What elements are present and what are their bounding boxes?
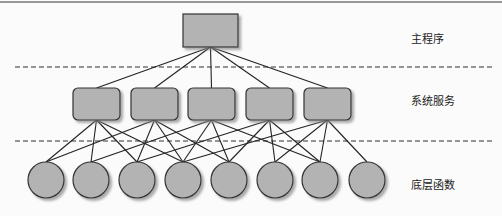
service-node-5 bbox=[304, 88, 351, 120]
layer-label-services: 系统服务 bbox=[411, 92, 455, 108]
function-node-3 bbox=[119, 162, 155, 198]
function-node-2 bbox=[73, 162, 109, 198]
service-node-2 bbox=[131, 88, 178, 120]
function-node-8 bbox=[349, 162, 385, 198]
edge-main-to-service bbox=[211, 47, 212, 88]
edge-main-to-service bbox=[211, 47, 328, 88]
service-node-3 bbox=[188, 88, 235, 120]
service-node-4 bbox=[246, 88, 293, 120]
function-node-6 bbox=[257, 162, 293, 198]
function-node-1 bbox=[28, 162, 64, 198]
nodes bbox=[28, 14, 385, 198]
function-node-4 bbox=[165, 162, 201, 198]
layer-label-functions: 底层函数 bbox=[411, 176, 455, 192]
main-program-node bbox=[183, 14, 238, 47]
function-node-7 bbox=[302, 162, 338, 198]
function-node-5 bbox=[211, 162, 247, 198]
service-node-1 bbox=[73, 88, 120, 120]
layer-label-main: 主程序 bbox=[411, 30, 444, 46]
